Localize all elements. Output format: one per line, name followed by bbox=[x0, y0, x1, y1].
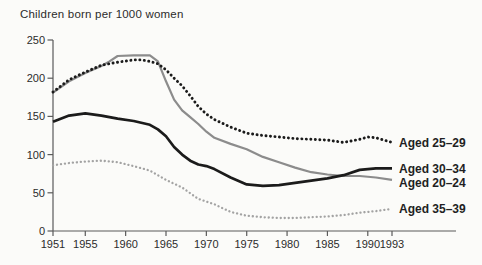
x-tick-label-1980: 1980 bbox=[275, 238, 299, 250]
line-aged-35-39 bbox=[53, 161, 392, 218]
y-tick-label-100: 100 bbox=[27, 149, 45, 161]
x-tick-label-1951: 1951 bbox=[41, 238, 65, 250]
x-tick-label-1965: 1965 bbox=[154, 238, 178, 250]
x-tick-label-1993: 1993 bbox=[380, 238, 404, 250]
y-tick-label-200: 200 bbox=[27, 72, 45, 84]
legend-aged-25-29: Aged 25–29 bbox=[399, 136, 466, 150]
x-tick-label-1960: 1960 bbox=[113, 238, 137, 250]
legend-aged-35-39: Aged 35–39 bbox=[399, 202, 466, 216]
y-tick-label-50: 50 bbox=[33, 187, 45, 199]
y-tick-label-250: 250 bbox=[27, 34, 45, 46]
legend-aged-20-24: Aged 20–24 bbox=[399, 176, 466, 190]
chart-canvas: 0501001502002501951195519601965197019751… bbox=[0, 0, 482, 265]
x-tick-label-1985: 1985 bbox=[315, 238, 339, 250]
legend-aged-30-34: Aged 30–34 bbox=[399, 162, 466, 176]
x-tick-label-1955: 1955 bbox=[73, 238, 97, 250]
x-tick-label-1970: 1970 bbox=[194, 238, 218, 250]
line-aged-25-29 bbox=[53, 60, 392, 142]
x-tick-label-1975: 1975 bbox=[234, 238, 258, 250]
y-tick-label-150: 150 bbox=[27, 110, 45, 122]
fertility-rate-chart: Children born per 1000 women 05010015020… bbox=[0, 0, 482, 265]
x-tick-label-1990: 1990 bbox=[356, 238, 380, 250]
y-tick-label-0: 0 bbox=[39, 225, 45, 237]
